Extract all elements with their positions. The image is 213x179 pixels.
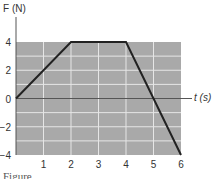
figure-caption: Figure (3, 171, 32, 179)
y-tick-label: 0 (5, 94, 11, 105)
y-tick-label: −2 (0, 122, 11, 133)
force-time-chart: 123456420−2−4 F (N) t (s) (0, 0, 213, 179)
y-tick-label: 2 (5, 65, 11, 76)
x-axis-label: t (s) (194, 92, 211, 103)
x-tick-label: 5 (151, 159, 157, 170)
y-axis-label: F (N) (3, 3, 26, 14)
x-tick-label: 2 (68, 159, 74, 170)
x-tick-label: 4 (123, 159, 129, 170)
x-tick-label: 3 (96, 159, 102, 170)
x-tick-label: 1 (41, 159, 47, 170)
y-tick-label: −4 (0, 150, 11, 161)
y-tick-label: 4 (5, 37, 11, 48)
x-tick-label: 6 (178, 159, 184, 170)
